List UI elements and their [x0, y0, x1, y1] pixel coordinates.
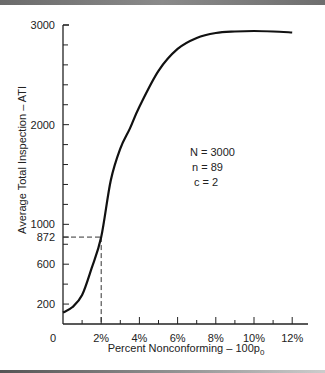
y-tick-label: 3000: [31, 19, 55, 31]
y-tick-label: 872: [37, 231, 55, 243]
ticks: 20060087210002000300002%4%6%8%10%12%: [31, 19, 304, 344]
y-axis-title: Average Total Inspection – ATI: [16, 86, 28, 234]
annotation-text: N = 3000: [190, 146, 235, 158]
annotation-text: c = 2: [194, 176, 218, 188]
y-tick-label: 200: [37, 298, 55, 310]
reference-dashed-lines: [63, 237, 101, 324]
annotation-text: n = 89: [192, 161, 223, 173]
ati-chart: 20060087210002000300002%4%6%8%10%12% N =…: [0, 0, 325, 373]
parameter-annotations: N = 3000n = 89c = 2: [190, 146, 235, 188]
x-axis-title: Percent Nonconforming – 100p0: [108, 342, 265, 357]
y-tick-label: 2000: [31, 119, 55, 131]
y-tick-label: 1000: [31, 218, 55, 230]
ati-curve: [63, 31, 292, 313]
x-tick-label: 12%: [281, 332, 303, 344]
y-tick-label: 600: [37, 258, 55, 270]
x-tick-label: 0: [50, 332, 56, 344]
axes: [63, 25, 308, 324]
